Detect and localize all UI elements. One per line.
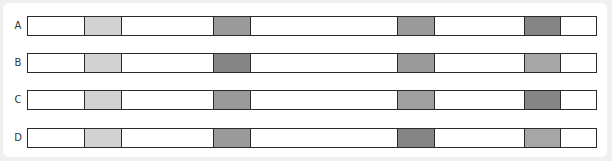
- shaded-block-medium: [397, 91, 435, 109]
- bar: [27, 128, 597, 148]
- bar: [27, 90, 597, 110]
- shaded-block-light: [84, 129, 122, 147]
- bar-row-a: A: [0, 16, 612, 36]
- row-label: C: [12, 92, 24, 108]
- bar-row-d: D: [0, 128, 612, 148]
- bar: [27, 16, 597, 36]
- shaded-block-medium-light: [524, 54, 561, 72]
- bar-row-b: B: [0, 53, 612, 73]
- row-label: D: [12, 130, 24, 146]
- shaded-block-light: [84, 91, 122, 109]
- row-label: A: [12, 18, 24, 34]
- shaded-block-dark: [524, 17, 561, 35]
- bar-row-c: C: [0, 90, 612, 110]
- shaded-block-medium: [213, 17, 251, 35]
- shaded-block-dark: [213, 54, 251, 72]
- shaded-block-medium: [397, 54, 435, 72]
- row-label: B: [12, 55, 24, 71]
- bar: [27, 53, 597, 73]
- shaded-block-dark: [524, 91, 561, 109]
- shaded-block-dark: [397, 129, 435, 147]
- shaded-block-medium: [213, 91, 251, 109]
- shaded-block-medium: [213, 129, 251, 147]
- shaded-block-light: [84, 54, 122, 72]
- shaded-block-medium-light: [524, 129, 561, 147]
- shaded-block-medium: [397, 17, 435, 35]
- shaded-block-light: [84, 17, 122, 35]
